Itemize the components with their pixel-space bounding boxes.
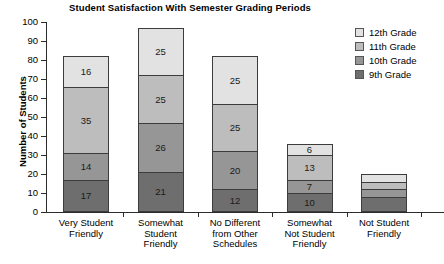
x-axis-category-label: No Differentfrom OtherSchedules bbox=[198, 218, 273, 250]
bar-segment[interactable]: 10 bbox=[287, 193, 333, 212]
legend-label: 12th Grade bbox=[369, 27, 417, 38]
y-tick: 50 bbox=[41, 117, 46, 118]
y-tick: 30 bbox=[41, 155, 46, 156]
y-tick-label: 50 bbox=[8, 111, 38, 122]
y-tick: 70 bbox=[41, 79, 46, 80]
x-label-line: Friendly bbox=[272, 239, 347, 250]
x-tick bbox=[421, 212, 422, 217]
x-label-line: Friendly bbox=[49, 229, 124, 240]
legend-item[interactable]: 10th Grade bbox=[355, 54, 443, 67]
y-tick-label: 40 bbox=[8, 130, 38, 141]
legend-swatch-icon bbox=[355, 56, 364, 65]
y-tick: 60 bbox=[41, 98, 46, 99]
x-label-line: Somewhat bbox=[123, 218, 198, 229]
legend-label: 10th Grade bbox=[369, 55, 417, 66]
legend-swatch-icon bbox=[355, 42, 364, 51]
x-label-line: Somewhat bbox=[272, 218, 347, 229]
legend-swatch-icon bbox=[355, 70, 364, 79]
x-label-line: Friendly bbox=[123, 239, 198, 250]
y-tick-label: 80 bbox=[8, 54, 38, 65]
stacked-bar[interactable]: 21262525 bbox=[138, 28, 184, 212]
x-label-line: No Different bbox=[198, 218, 273, 229]
stacked-bar-chart: Student Satisfaction With Semester Gradi… bbox=[0, 0, 444, 264]
bar-segment[interactable]: 12 bbox=[212, 189, 258, 212]
x-tick bbox=[272, 212, 273, 217]
legend-label: 11th Grade bbox=[369, 41, 416, 52]
legend-item[interactable]: 11th Grade bbox=[355, 40, 443, 53]
bar-segment[interactable]: 6 bbox=[287, 144, 333, 155]
y-axis-line bbox=[46, 22, 47, 212]
stacked-bar[interactable]: 17143516 bbox=[63, 56, 109, 212]
bar-segment[interactable] bbox=[361, 189, 407, 197]
y-tick: 20 bbox=[41, 174, 46, 175]
x-label-line: Very Student bbox=[49, 218, 124, 229]
bar-segment[interactable]: 26 bbox=[138, 123, 184, 172]
bar-segment[interactable]: 21 bbox=[138, 172, 184, 212]
y-tick: 0 bbox=[41, 212, 46, 213]
y-tick-label: 20 bbox=[8, 168, 38, 179]
stacked-bar[interactable]: 12202525 bbox=[212, 56, 258, 212]
y-tick-label: 100 bbox=[8, 16, 38, 27]
bar-segment[interactable]: 25 bbox=[138, 75, 184, 123]
x-axis-category-label: SomewhatStudentFriendly bbox=[123, 218, 198, 250]
y-tick: 80 bbox=[41, 60, 46, 61]
bar-segment[interactable]: 20 bbox=[212, 151, 258, 189]
x-label-line: Friendly bbox=[347, 229, 422, 240]
bar-segment[interactable]: 25 bbox=[138, 28, 184, 76]
bar-segment[interactable]: 14 bbox=[63, 153, 109, 180]
y-tick: 40 bbox=[41, 136, 46, 137]
x-axis-line bbox=[46, 212, 444, 213]
y-tick-label: 90 bbox=[8, 35, 38, 46]
bar-segment[interactable]: 25 bbox=[212, 56, 258, 104]
bar-segment[interactable]: 13 bbox=[287, 155, 333, 180]
y-tick-label: 10 bbox=[8, 187, 38, 198]
x-axis-category-label: SomewhatNot StudentFriendly bbox=[272, 218, 347, 250]
bar-segment[interactable]: 7 bbox=[287, 180, 333, 193]
stacked-bar[interactable]: 107136 bbox=[287, 144, 333, 212]
chart-title: Student Satisfaction With Semester Gradi… bbox=[40, 2, 340, 13]
x-tick bbox=[347, 212, 348, 217]
y-tick: 10 bbox=[41, 193, 46, 194]
legend-item[interactable]: 9th Grade bbox=[355, 68, 443, 81]
bar-segment[interactable] bbox=[361, 197, 407, 212]
y-tick-label: 70 bbox=[8, 73, 38, 84]
legend-swatch-icon bbox=[355, 28, 364, 37]
legend-label: 9th Grade bbox=[369, 69, 411, 80]
y-tick-label: 0 bbox=[8, 206, 38, 217]
x-label-line: Not Student bbox=[347, 218, 422, 229]
bar-segment[interactable]: 17 bbox=[63, 180, 109, 212]
stacked-bar[interactable] bbox=[361, 174, 407, 212]
x-tick bbox=[198, 212, 199, 217]
y-tick-label: 60 bbox=[8, 92, 38, 103]
plot-area: 1009080706050403020100 17143516212625251… bbox=[46, 22, 343, 212]
x-label-line: Schedules bbox=[198, 239, 273, 250]
bar-segment[interactable] bbox=[361, 182, 407, 190]
y-tick-label: 30 bbox=[8, 149, 38, 160]
legend: 12th Grade11th Grade10th Grade9th Grade bbox=[355, 26, 443, 82]
x-axis-category-label: Not StudentFriendly bbox=[347, 218, 422, 239]
legend-item[interactable]: 12th Grade bbox=[355, 26, 443, 39]
bar-segment[interactable]: 25 bbox=[212, 104, 258, 152]
bar-segment[interactable] bbox=[361, 174, 407, 182]
bar-segment[interactable]: 16 bbox=[63, 56, 109, 86]
x-tick bbox=[123, 212, 124, 217]
x-axis-category-label: Very StudentFriendly bbox=[49, 218, 124, 239]
y-tick: 100 bbox=[41, 22, 46, 23]
bar-segment[interactable]: 35 bbox=[63, 87, 109, 154]
y-tick: 90 bbox=[41, 41, 46, 42]
